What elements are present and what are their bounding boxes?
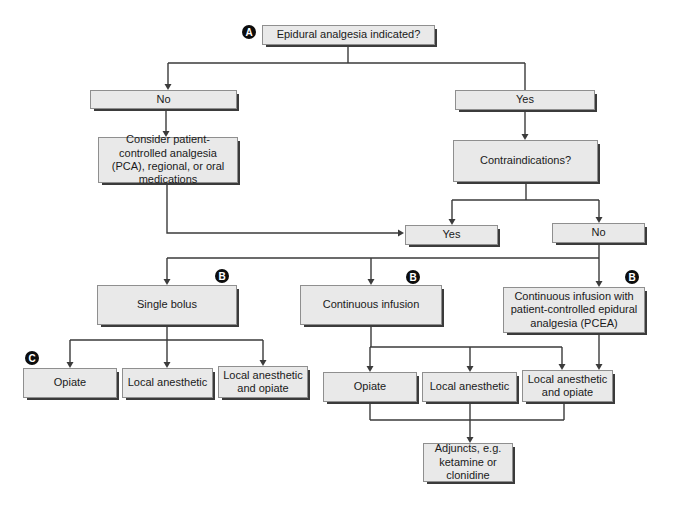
edge-contraindications-split <box>452 182 599 219</box>
node-single-bolus-label: Single bolus <box>137 298 197 311</box>
edge-convergence-to-adjuncts <box>370 402 564 437</box>
node-ci-local: Local anesthetic <box>422 372 517 402</box>
node-contraindications-label: Contraindications? <box>480 154 571 167</box>
badge-a: A <box>242 25 256 39</box>
node-pcea-label: Continuous infusion with patient-control… <box>508 290 640 330</box>
node-continuous-infusion: Continuous infusion <box>300 285 442 325</box>
node-sb-opiate-label: Opiate <box>54 376 86 389</box>
node-yes-initial: Yes <box>455 90 595 110</box>
node-single-bolus: Single bolus <box>97 285 237 325</box>
node-sb-local: Local anesthetic <box>122 368 213 398</box>
node-adjuncts: Adjuncts, e.g. ketamine or clonidine <box>423 443 513 482</box>
node-pcea: Continuous infusion with patient-control… <box>503 287 645 333</box>
node-root-label: Epidural analgesia indicated? <box>277 28 421 41</box>
edge-root-split <box>168 45 525 90</box>
node-yes-initial-label: Yes <box>516 93 534 106</box>
node-sb-local-opiate-label: Local anesthetic and opiate <box>223 369 303 396</box>
node-no-initial: No <box>90 90 237 109</box>
connector-lines <box>0 0 674 509</box>
node-no-initial-label: No <box>156 93 170 106</box>
node-sb-local-opiate: Local anesthetic and opiate <box>218 366 308 398</box>
node-root: Epidural analgesia indicated? <box>262 25 435 45</box>
node-contra-no-label: No <box>591 226 605 239</box>
flowchart-canvas: A B B B C Epidural analgesia indicated? … <box>0 0 674 509</box>
node-contra-yes: Yes <box>405 225 498 245</box>
node-consider-pca: Consider patient-controlled analgesia (P… <box>98 137 238 183</box>
node-ci-opiate-label: Opiate <box>354 380 386 393</box>
node-consider-pca-label: Consider patient-controlled analgesia (P… <box>103 133 233 187</box>
badge-b-single-bolus: B <box>215 269 229 283</box>
node-adjuncts-label: Adjuncts, e.g. ketamine or clonidine <box>428 442 508 482</box>
edge-contra-no-split <box>167 243 599 281</box>
node-contra-yes-label: Yes <box>443 228 461 241</box>
node-sb-opiate: Opiate <box>23 368 117 398</box>
badge-b-pcea: B <box>625 270 639 284</box>
node-ci-local-label: Local anesthetic <box>430 380 510 393</box>
node-ci-local-opiate: Local anesthetic and opiate <box>522 370 613 402</box>
edge-single-bolus-split <box>70 325 263 362</box>
node-ci-local-opiate-label: Local anesthetic and opiate <box>527 373 608 400</box>
node-continuous-infusion-label: Continuous infusion <box>323 298 420 311</box>
node-sb-local-label: Local anesthetic <box>128 376 208 389</box>
node-ci-opiate: Opiate <box>323 372 417 402</box>
node-contra-no: No <box>552 223 645 243</box>
badge-b-continuous-infusion: B <box>406 270 420 284</box>
badge-c: C <box>25 351 39 365</box>
edge-consider-to-contra-yes <box>167 183 398 233</box>
node-contraindications: Contraindications? <box>453 140 598 182</box>
arrowhead-right-into-contra-yes <box>398 230 404 237</box>
